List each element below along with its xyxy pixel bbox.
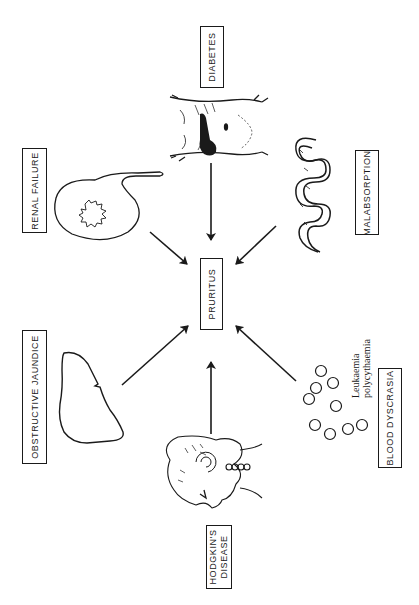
leukaemia-text: Leukaemia (350, 339, 361, 398)
blood-dyscrasia-box: BLOOD DYSCRASIA (378, 368, 402, 468)
arrow-blood-dyscrasia (236, 326, 296, 381)
blood-annotation: Leukaemia polycythaemia (350, 339, 372, 398)
liver-illustration (60, 352, 124, 443)
obstructive-jaundice-label: OBSTRUCTIVE JAUNDICE (29, 335, 40, 459)
hodgkins-line2: DISEASE (219, 529, 230, 584)
hodgkins-disease-box: HODGKIN'S DISEASE (206, 525, 232, 589)
blood-dyscrasia-label: BLOOD DYSCRASIA (385, 370, 396, 465)
intestine-illustration (296, 138, 330, 252)
malabsorption-box: MALABSORPTION (355, 150, 379, 235)
polycythaemia-text: polycythaemia (361, 339, 372, 398)
pruritus-label: PRURITUS (206, 269, 217, 320)
hodgkins-line1: HODGKIN'S (208, 529, 219, 584)
arrow-malabsorption (236, 226, 276, 264)
renal-failure-label: RENAL FAILURE (29, 152, 40, 230)
pancreas-icon (200, 114, 217, 156)
diabetes-label: DIABETES (207, 32, 218, 81)
arrow-renal-failure (150, 232, 187, 264)
kidney-illustration (55, 172, 163, 240)
abdomen-illustration (170, 95, 268, 161)
pruritus-box: PRURITUS (200, 258, 223, 330)
malabsorption-label: MALABSORPTION (362, 150, 373, 235)
obstructive-jaundice-box: OBSTRUCTIVE JAUNDICE (22, 330, 47, 464)
hodgkins-disease-label: HODGKIN'S DISEASE (208, 529, 230, 584)
head-illustration (166, 436, 262, 508)
renal-failure-box: RENAL FAILURE (22, 148, 47, 233)
arrow-obstructive-jaundice (122, 326, 188, 385)
diabetes-box: DIABETES (200, 26, 224, 88)
